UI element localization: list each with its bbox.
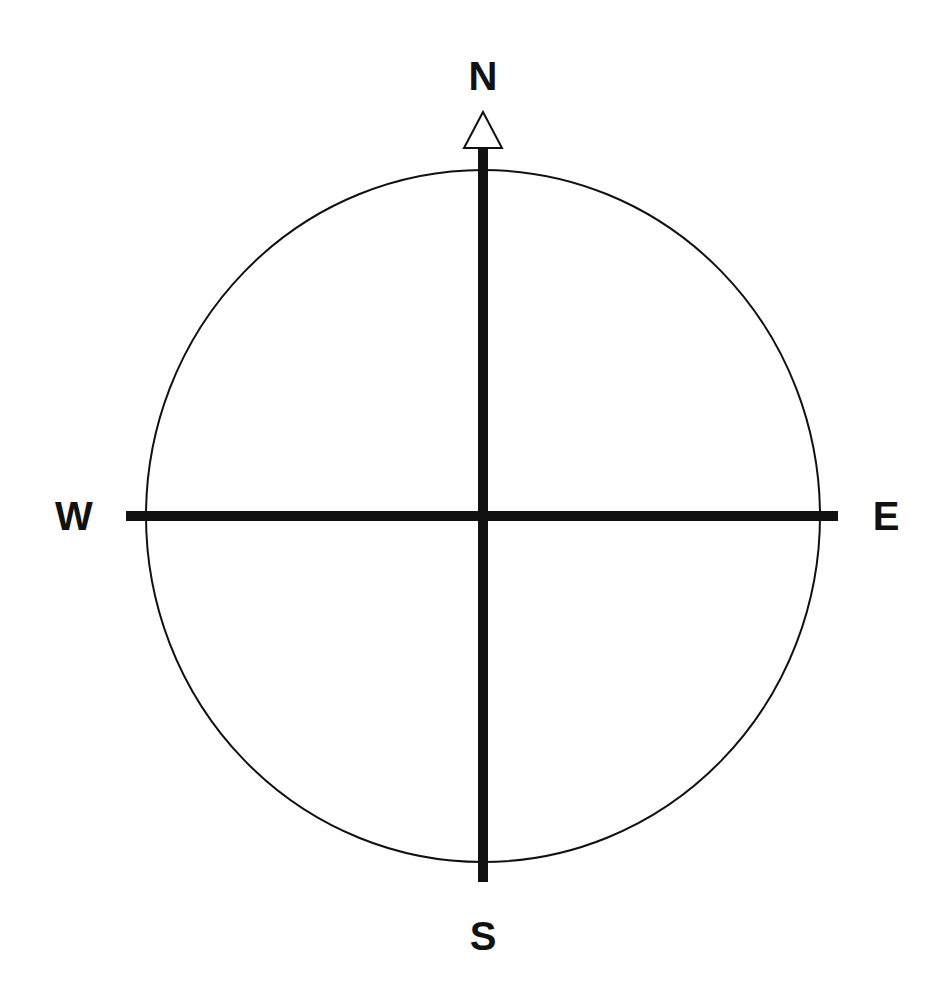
north-south-axis — [478, 146, 488, 882]
north-label: N — [469, 56, 498, 96]
compass-diagram — [0, 0, 950, 996]
north-arrow-icon — [464, 112, 502, 148]
east-label: E — [873, 496, 900, 536]
west-label: W — [55, 496, 93, 536]
south-label: S — [470, 916, 497, 956]
